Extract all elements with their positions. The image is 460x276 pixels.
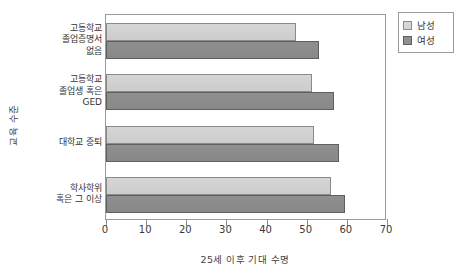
- plot-area: [105, 14, 386, 220]
- x-tick-label-0: 0: [102, 224, 108, 235]
- x-tick-label-10: 10: [139, 224, 152, 235]
- x-tick-label-70: 70: [380, 224, 393, 235]
- legend-label-male: 남성: [417, 18, 435, 32]
- legend-label-female: 여성: [417, 33, 435, 47]
- y-axis-title: 교육 수준: [6, 80, 20, 170]
- x-tick-label-40: 40: [259, 224, 272, 235]
- bar-여성-3: [106, 195, 345, 213]
- bar-여성-1: [106, 92, 334, 110]
- bar-남성-3: [106, 177, 331, 195]
- x-tick-label-30: 30: [219, 224, 232, 235]
- x-tick-label-50: 50: [299, 224, 312, 235]
- category-label-0: 고등학교 졸업증명서 없음: [24, 23, 102, 58]
- legend-item-male[interactable]: 남성: [403, 18, 449, 32]
- x-tick-label-20: 20: [179, 224, 192, 235]
- legend-swatch-female-icon: [403, 36, 412, 45]
- category-label-1: 고등학교 졸업생 혹은 GED: [24, 74, 102, 109]
- x-tick-label-60: 60: [339, 224, 352, 235]
- legend-item-female[interactable]: 여성: [403, 33, 449, 47]
- bar-남성-1: [106, 74, 312, 92]
- bar-chart: 교육 수준 고등학교 졸업증명서 없음고등학교 졸업생 혹은 GED대학교 중퇴…: [0, 0, 460, 276]
- bar-여성-2: [106, 144, 339, 162]
- legend-swatch-male-icon: [403, 21, 412, 30]
- bar-남성-2: [106, 126, 314, 144]
- category-label-list: 고등학교 졸업증명서 없음고등학교 졸업생 혹은 GED대학교 중퇴학사학위 혹…: [24, 14, 102, 220]
- bars-layer: [106, 15, 385, 219]
- legend: 남성여성: [398, 12, 454, 53]
- bar-남성-0: [106, 23, 296, 41]
- x-axis-title: 25세 이후 기대 수명: [0, 252, 460, 266]
- category-label-3: 학사학위 혹은 그 이상: [24, 183, 102, 206]
- bar-여성-0: [106, 41, 319, 59]
- category-label-2: 대학교 중퇴: [24, 137, 102, 149]
